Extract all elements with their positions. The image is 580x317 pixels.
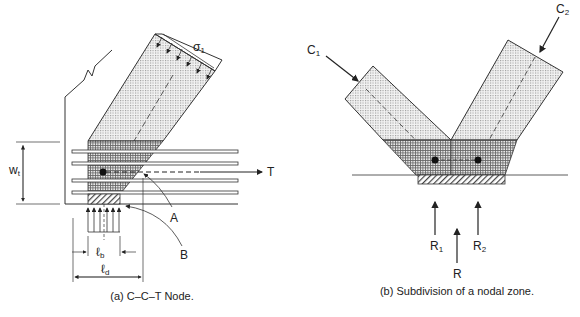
c2-arrow — [540, 17, 559, 52]
c2-label: C2 — [556, 2, 570, 17]
node-point-2 — [475, 157, 482, 164]
bearing-plate — [88, 194, 120, 204]
nodal-zone — [88, 141, 163, 193]
strut-c2 — [451, 40, 563, 140]
node-point-1 — [432, 157, 439, 164]
figure-b-nodal-subdivision: C1 C2 R1 R2 R (b) Subdivision of a nodal… — [307, 2, 570, 297]
caption-a: (a) C–C–T Node. — [110, 290, 194, 302]
r-label: R — [453, 267, 462, 281]
caption-b: (b) Subdivision of a nodal zone. — [380, 285, 534, 297]
label-b: B — [180, 248, 188, 262]
r2-label: R2 — [473, 239, 487, 254]
tension-label: T — [267, 165, 275, 179]
node-point — [100, 169, 107, 176]
nodal-zone — [383, 140, 517, 175]
label-a: A — [170, 211, 178, 225]
ld-label: ℓd — [101, 262, 109, 277]
bearing-plate — [418, 175, 505, 184]
figure-a-cct-node: T σ1 A B wt ℓb ℓd (a) C–C–T Node. — [8, 34, 275, 302]
c1-label: C1 — [307, 43, 321, 58]
wt-label: wt — [8, 163, 21, 178]
lb-label: ℓb — [96, 245, 105, 260]
strut-and-tie-figure: T σ1 A B wt ℓb ℓd (a) C–C–T Node. — [0, 0, 580, 317]
strut-c1 — [345, 66, 451, 140]
c1-arrow — [326, 56, 358, 81]
stress-label: σ1 — [193, 40, 205, 55]
r1-label: R1 — [430, 239, 444, 254]
